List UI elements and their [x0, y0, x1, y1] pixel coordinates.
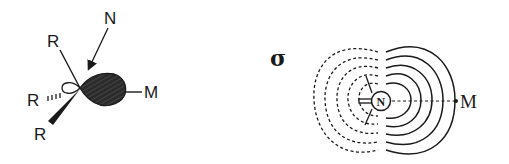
label-sigma: σ [270, 45, 286, 71]
hashed-bond-r-left [48, 93, 60, 101]
label-r-left: R [27, 91, 39, 110]
metal-point [454, 99, 458, 103]
wedge-bond-r-bottom [48, 89, 80, 125]
label-nitrogen: N [377, 95, 386, 109]
label-nucleophile: N [104, 9, 116, 28]
label-metal: M [144, 83, 158, 102]
solid-contours [386, 47, 455, 154]
large-orbital-lobe [80, 73, 126, 105]
label-r-top: R [47, 32, 59, 51]
label-metal-right: M [460, 91, 477, 112]
diagram-canvas: N R R R M σ [0, 0, 509, 164]
sigma-contour-diagram: σ N M [270, 45, 477, 154]
label-r-bottom: R [34, 125, 46, 144]
sp3-orbital-diagram: N R R R M [27, 9, 158, 144]
nucleophile-approach-arrow [90, 28, 108, 66]
